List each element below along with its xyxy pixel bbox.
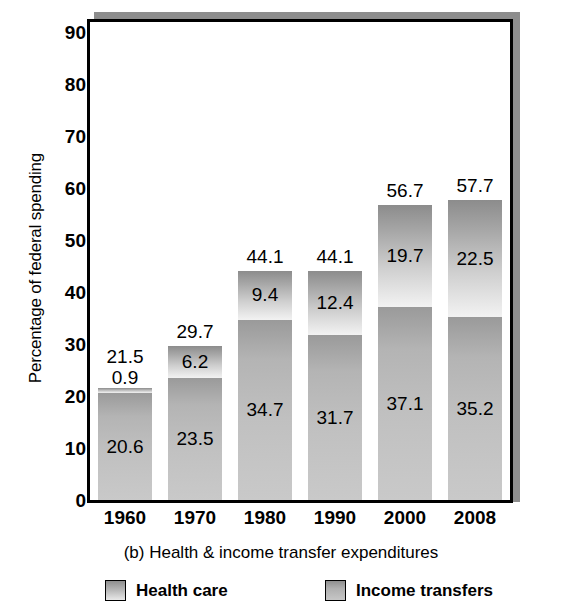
bar-value-health-care-1990: 12.4 [308, 293, 362, 312]
x-axis-tick-2008: 2008 [440, 508, 510, 527]
y-axis-tick-labels: 0102030405060708090 [40, 0, 86, 520]
y-axis-tick-90: 90 [65, 23, 86, 42]
y-axis-tick-60: 60 [65, 179, 86, 198]
legend-item-income-transfers[interactable]: Income transfers [325, 580, 493, 601]
y-axis-tick-10: 10 [65, 439, 86, 458]
chart-legend: Health careIncome transfers [0, 580, 562, 606]
bar-value-health-care-1960: 0.9 [98, 368, 152, 387]
bars-container: 20.60.921.523.56.229.734.79.444.131.712.… [90, 22, 510, 500]
legend-swatch-icon-health-care [105, 580, 126, 601]
bar-value-income-transfers-1970: 23.5 [168, 429, 222, 448]
x-axis-tick-labels: 196019701980199020002008 [87, 508, 513, 536]
y-axis-tick-0: 0 [75, 491, 86, 510]
legend-label: Health care [136, 581, 228, 601]
bar-2008[interactable]: 35.222.557.7 [448, 200, 502, 500]
y-axis-tick-80: 80 [65, 75, 86, 94]
legend-swatch-icon-income-transfers [325, 580, 346, 601]
bar-value-income-transfers-1990: 31.7 [308, 408, 362, 427]
x-axis-tick-1990: 1990 [300, 508, 370, 527]
stacked-bar-chart-figure: Percentage of federal spending 010203040… [0, 0, 562, 613]
y-axis-tick-40: 40 [65, 283, 86, 302]
plot-area: 20.60.921.523.56.229.734.79.444.131.712.… [87, 19, 513, 503]
bar-total-1980: 44.1 [238, 247, 292, 266]
bar-total-2008: 57.7 [448, 176, 502, 195]
y-axis-tick-30: 30 [65, 335, 86, 354]
bar-total-1990: 44.1 [308, 247, 362, 266]
bar-1960[interactable]: 20.60.921.5 [98, 388, 152, 500]
legend-item-health-care[interactable]: Health care [105, 580, 228, 601]
y-axis-tick-20: 20 [65, 387, 86, 406]
figure-caption: (b) Health & income transfer expenditure… [0, 543, 562, 563]
legend-label: Income transfers [356, 581, 493, 601]
bar-value-income-transfers-2000: 37.1 [378, 394, 432, 413]
bar-1970[interactable]: 23.56.229.7 [168, 346, 222, 500]
y-axis-tick-50: 50 [65, 231, 86, 250]
bar-value-health-care-1980: 9.4 [238, 285, 292, 304]
x-axis-tick-1980: 1980 [230, 508, 300, 527]
bar-2000[interactable]: 37.119.756.7 [378, 205, 432, 500]
bar-total-1970: 29.7 [168, 322, 222, 341]
bar-value-income-transfers-1980: 34.7 [238, 400, 292, 419]
bar-value-health-care-2008: 22.5 [448, 249, 502, 268]
x-axis-tick-1970: 1970 [160, 508, 230, 527]
bar-1980[interactable]: 34.79.444.1 [238, 271, 292, 500]
bar-total-1960: 21.5 [98, 347, 152, 366]
bar-value-health-care-2000: 19.7 [378, 246, 432, 265]
bar-total-2000: 56.7 [378, 181, 432, 200]
bar-value-income-transfers-1960: 20.6 [98, 437, 152, 456]
x-axis-tick-1960: 1960 [90, 508, 160, 527]
x-axis-tick-2000: 2000 [370, 508, 440, 527]
bar-value-health-care-1970: 6.2 [168, 352, 222, 371]
bar-value-income-transfers-2008: 35.2 [448, 399, 502, 418]
bar-segment-health-care-1960[interactable] [98, 388, 152, 393]
bar-1990[interactable]: 31.712.444.1 [308, 271, 362, 500]
y-axis-tick-70: 70 [65, 127, 86, 146]
